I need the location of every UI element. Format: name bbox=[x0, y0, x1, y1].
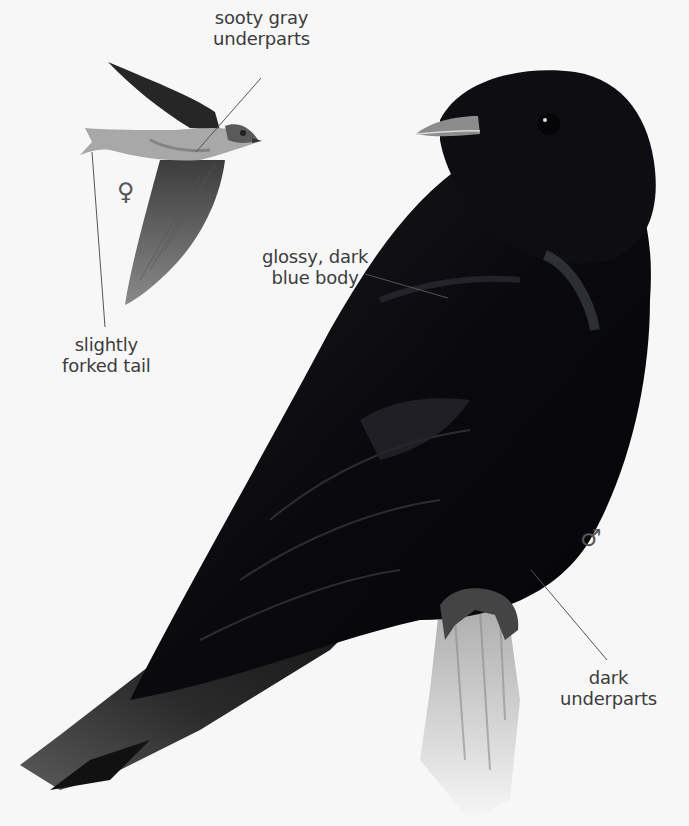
label-line: dark bbox=[560, 667, 657, 688]
label-line: underparts bbox=[560, 688, 657, 709]
label-line: blue body bbox=[262, 267, 368, 288]
label-line: sooty gray bbox=[213, 7, 310, 28]
label-slightly-forked-tail: slightly forked tail bbox=[62, 334, 151, 376]
label-glossy-dark-blue-body: glossy, dark blue body bbox=[262, 246, 368, 288]
label-sooty-gray-underparts: sooty gray underparts bbox=[213, 7, 310, 49]
label-line: underparts bbox=[213, 28, 310, 49]
label-dark-underparts: dark underparts bbox=[560, 667, 657, 709]
male-symbol-icon: ♂ bbox=[580, 526, 602, 550]
label-line: glossy, dark bbox=[262, 246, 368, 267]
leader-forked-tail bbox=[92, 152, 105, 327]
female-purple-martin bbox=[80, 62, 262, 305]
label-line: forked tail bbox=[62, 355, 151, 376]
label-line: slightly bbox=[62, 334, 151, 355]
female-symbol-icon: ♀ bbox=[117, 180, 135, 204]
leader-dark-underparts bbox=[531, 570, 607, 660]
